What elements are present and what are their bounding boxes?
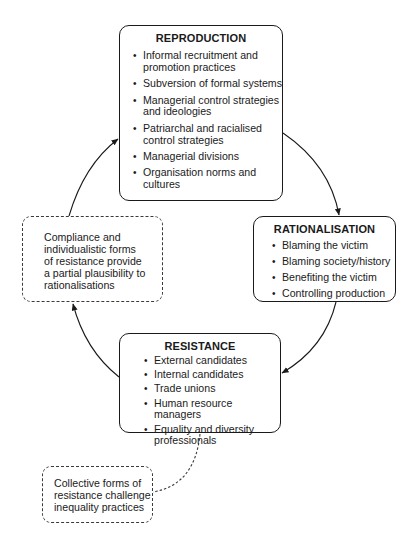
bullet-icon: • <box>133 50 137 62</box>
bullet-icon: • <box>133 167 137 179</box>
rationalisation-title: RATIONALISATION <box>254 223 395 236</box>
arrow-rationalisation-to-resistance <box>282 302 336 373</box>
list-item: •Subversion of formal systems <box>143 78 282 90</box>
bullet-icon: • <box>133 151 137 163</box>
bullet-icon: • <box>144 383 148 395</box>
rationalisation-box: RATIONALISATION •Blaming the victim •Bla… <box>253 216 396 302</box>
reproduction-list: •Informal recruitment andpromotion pract… <box>143 50 282 191</box>
rationalisation-list: •Blaming the victim •Blaming society/his… <box>282 240 395 300</box>
collective-note-box: Collective forms of resistance challenge… <box>42 466 153 523</box>
resistance-list: •External candidates •Internal candidate… <box>154 355 280 447</box>
compliance-note-box: Compliance and individualistic forms of … <box>22 216 163 302</box>
bullet-icon: • <box>144 424 148 436</box>
list-item: •Controlling production <box>282 288 395 300</box>
reproduction-title: REPRODUCTION <box>120 32 282 45</box>
reproduction-box: REPRODUCTION •Informal recruitment andpr… <box>119 25 283 201</box>
resistance-box: RESISTANCE •External candidates •Interna… <box>119 333 281 433</box>
list-item: •Benefiting the victim <box>282 272 395 284</box>
bullet-icon: • <box>272 240 276 252</box>
list-item: •Blaming the victim <box>282 240 395 252</box>
list-item: •Patriarchal and racialisedcontrol strat… <box>143 123 282 147</box>
list-item: •Managerial control strategiesand ideolo… <box>143 95 282 119</box>
bullet-icon: • <box>133 123 137 135</box>
list-item: •Blaming society/history <box>282 256 395 268</box>
list-item: •External candidates <box>154 355 280 367</box>
list-item: •Informal recruitment andpromotion pract… <box>143 50 282 74</box>
bullet-icon: • <box>272 272 276 284</box>
bullet-icon: • <box>133 95 137 107</box>
bullet-icon: • <box>133 78 137 90</box>
resistance-title: RESISTANCE <box>120 340 280 353</box>
bullet-icon: • <box>272 256 276 268</box>
arrow-compliance-to-reproduction <box>69 139 118 216</box>
list-item: •Human resource managers <box>154 398 280 422</box>
bullet-icon: • <box>144 398 148 410</box>
list-item: •Managerial divisions <box>143 151 282 163</box>
collective-note-text: Collective forms of resistance challenge… <box>54 477 152 513</box>
bullet-icon: • <box>144 355 148 367</box>
arrow-resistance-to-compliance <box>73 304 119 377</box>
list-item: •Trade unions <box>154 383 280 395</box>
list-item: •Organisation norms andcultures <box>143 167 282 191</box>
bullet-icon: • <box>144 369 148 381</box>
list-item: •Equality and diversityprofessionals <box>154 424 280 448</box>
bullet-icon: • <box>272 288 276 300</box>
compliance-note-text: Compliance and individualistic forms of … <box>44 231 162 291</box>
arrow-reproduction-to-rationalisation <box>283 133 339 215</box>
list-item: •Internal candidates <box>154 369 280 381</box>
